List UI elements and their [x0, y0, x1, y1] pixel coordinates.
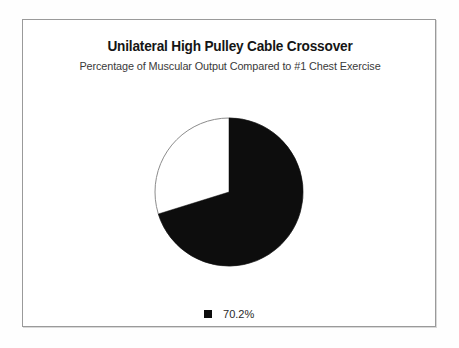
pie-chart-svg: [154, 117, 304, 267]
legend-label: 70.2%: [223, 308, 254, 320]
pie-chart: [154, 117, 304, 267]
legend-item: 70.2%: [204, 308, 256, 320]
chart-subtitle: Percentage of Muscular Output Compared t…: [31, 60, 428, 73]
legend-swatch-black: [204, 310, 212, 318]
chart-title: Unilateral High Pulley Cable Crossover: [35, 38, 424, 54]
chart-legend: 70.2%: [23, 308, 437, 320]
chart-frame: Unilateral High Pulley Cable Crossover P…: [22, 19, 436, 327]
page-canvas: Unilateral High Pulley Cable Crossover P…: [0, 0, 459, 348]
title-block: Unilateral High Pulley Cable Crossover P…: [23, 38, 437, 73]
